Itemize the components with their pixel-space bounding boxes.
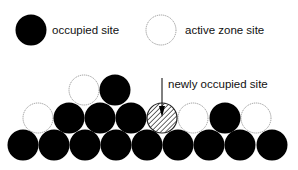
occupied-site (257, 130, 288, 161)
occupied-site (116, 103, 147, 134)
active-zone-site (178, 103, 208, 133)
occupied-site (132, 130, 163, 161)
occupied-site (163, 130, 194, 161)
crystal-growth-diagram: occupied site active zone site newly occ… (0, 0, 298, 170)
active-zone-site (23, 103, 53, 133)
occupied-site (85, 103, 116, 134)
occupied-site (210, 103, 241, 134)
active-zone-site-legend-label: active zone site (185, 24, 264, 36)
legend: occupied site active zone site (16, 15, 265, 46)
occupied-site (39, 130, 70, 161)
occupied-site (225, 130, 256, 161)
occupied-site-legend-label: occupied site (52, 24, 119, 36)
occupied-site-legend-icon (16, 15, 47, 46)
occupied-site (100, 75, 131, 106)
occupied-site (8, 130, 39, 161)
occupied-site (54, 103, 85, 134)
occupied-site (101, 130, 132, 161)
occupied-site (70, 130, 101, 161)
newly-occupied-site-label: newly occupied site (168, 78, 268, 90)
occupied-site (194, 130, 225, 161)
active-zone-site (69, 75, 99, 105)
active-zone-site-legend-icon (146, 15, 176, 45)
active-zone-site (241, 103, 271, 133)
